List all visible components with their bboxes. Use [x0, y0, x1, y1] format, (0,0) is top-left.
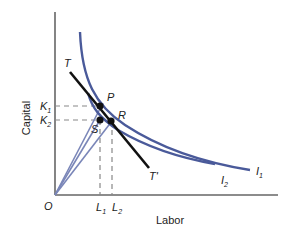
y-axis-label: Capital — [20, 101, 32, 135]
tangent-start-label: T — [64, 57, 72, 69]
k1-label: K1 — [40, 100, 51, 114]
x-axis-label: Labor — [156, 214, 184, 226]
point-r-label: R — [118, 109, 126, 121]
point-p — [96, 102, 103, 109]
expansion-rays — [55, 103, 112, 195]
k2-label: K2 — [40, 114, 51, 128]
isoquant-i2-label: I2 — [221, 174, 228, 188]
tangent-end-label: T' — [149, 170, 159, 182]
point-p-label: P — [107, 91, 115, 103]
point-r — [107, 117, 114, 124]
isoquant-i1 — [80, 32, 250, 170]
isoquant-diagram: Capital Labor O K1 K2 L1 L2 T T' P R S I… — [0, 0, 294, 237]
origin-label: O — [44, 200, 53, 212]
l2-label: L2 — [112, 201, 122, 215]
l1-label: L1 — [96, 201, 106, 215]
point-s-label: S — [91, 123, 99, 135]
isoquant-i1-label: I1 — [256, 165, 263, 179]
